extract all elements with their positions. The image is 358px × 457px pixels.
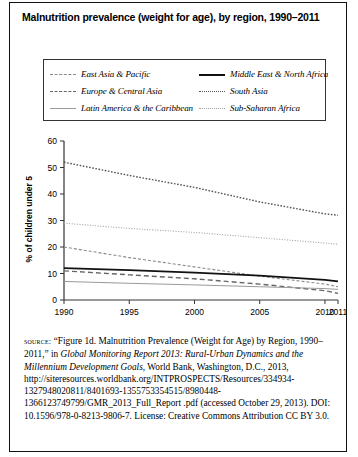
page-title: Malnutrition prevalence (weight for age)… bbox=[22, 11, 322, 24]
legend-item-latin-america-caribbean: Latin America & the Caribbean bbox=[50, 99, 200, 116]
legend-item-middle-east-north-africa: Middle East & North Africa bbox=[199, 65, 324, 82]
legend-label: Latin America & the Caribbean bbox=[81, 103, 193, 113]
legend-label: Sub-Saharan Africa bbox=[230, 103, 300, 113]
y-tick-label: 10 bbox=[48, 269, 58, 279]
series-line-ssa bbox=[64, 223, 338, 244]
chart-plot-area: % of children under 5 010203040506019901… bbox=[10, 121, 348, 326]
legend-line-icon-middle-east-north-africa bbox=[199, 70, 225, 78]
x-tick-label: 2011 bbox=[329, 307, 348, 317]
legend-item-south-asia: South Asia bbox=[199, 82, 324, 99]
legend-line-icon-east-asia-pacific bbox=[50, 70, 76, 78]
legend-label: Middle East & North Africa bbox=[230, 69, 328, 79]
legend-item-sub-saharan-africa: Sub-Saharan Africa bbox=[199, 99, 324, 116]
legend-label: South Asia bbox=[230, 86, 268, 96]
source-label: source: bbox=[24, 337, 51, 346]
x-tick-label: 2000 bbox=[185, 307, 204, 317]
legend-column-right: Middle East & North Africa South Asia Su… bbox=[199, 65, 324, 116]
y-tick-label: 40 bbox=[48, 189, 58, 199]
x-tick-label: 1990 bbox=[55, 307, 74, 317]
legend-label: East Asia & Pacific bbox=[81, 69, 150, 79]
legend-line-icon-sub-saharan-africa bbox=[199, 104, 225, 112]
y-tick-label: 50 bbox=[48, 163, 58, 173]
line-chart: 0102030405060199019952000200520102011 bbox=[10, 121, 348, 326]
series-line-sa bbox=[64, 162, 338, 215]
figure-panel: Malnutrition prevalence (weight for age)… bbox=[9, 2, 347, 452]
series-line-lac bbox=[64, 281, 338, 289]
x-tick-label: 1995 bbox=[120, 307, 139, 317]
series-line-eca bbox=[64, 271, 338, 294]
x-tick-label: 2005 bbox=[250, 307, 269, 317]
source-note: source: “Figure 1d. Malnutrition Prevale… bbox=[24, 335, 334, 422]
y-tick-label: 30 bbox=[48, 216, 58, 226]
legend-line-icon-europe-central-asia bbox=[50, 87, 76, 95]
legend-item-east-asia-pacific: East Asia & Pacific bbox=[50, 65, 200, 82]
y-tick-label: 60 bbox=[48, 136, 58, 146]
legend-line-icon-latin-america-caribbean bbox=[50, 104, 76, 112]
legend-item-europe-central-asia: Europe & Central Asia bbox=[50, 82, 200, 99]
legend-line-icon-south-asia bbox=[199, 87, 225, 95]
legend-column-left: East Asia & Pacific Europe & Central Asi… bbox=[50, 65, 200, 116]
y-tick-label: 20 bbox=[48, 242, 58, 252]
series-line-eap bbox=[64, 247, 338, 287]
legend-label: Europe & Central Asia bbox=[81, 86, 162, 96]
chart-legend: East Asia & Pacific Europe & Central Asi… bbox=[43, 59, 326, 121]
y-tick-label: 0 bbox=[52, 295, 57, 305]
